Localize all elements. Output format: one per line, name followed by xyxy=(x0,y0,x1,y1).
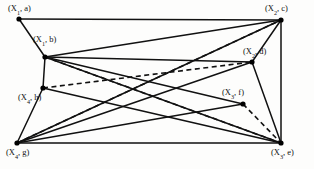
vertex-dot-f[interactable] xyxy=(240,101,245,106)
vertex-dot-e[interactable] xyxy=(278,140,283,145)
edge-solid-g-d xyxy=(17,62,252,143)
vertex-dot-b[interactable] xyxy=(42,54,47,59)
vertex-dot-h[interactable] xyxy=(40,85,45,90)
edge-solid-d-e xyxy=(252,62,281,143)
edge-solid-b-h xyxy=(43,57,45,88)
vertex-label-f: (X3, f) xyxy=(222,88,244,97)
edge-solid-h-e xyxy=(43,88,281,143)
vertex-dot-g[interactable] xyxy=(14,140,19,145)
edge-dashed-f-e xyxy=(243,104,281,143)
edge-solid-b-d xyxy=(45,57,252,62)
edge-solid-g-f xyxy=(17,104,243,143)
vertex-label-d: (X2, d) xyxy=(243,47,266,56)
edge-dashed-g-c xyxy=(17,20,281,143)
vertex-label-h: (X4, h) xyxy=(18,93,41,102)
edges-dashed-group xyxy=(17,20,281,143)
vertex-label-a: (X1, a) xyxy=(8,4,31,13)
edge-dashed-h-d xyxy=(43,62,252,88)
vertex-label-e: (X3, e) xyxy=(271,148,294,157)
vertex-dot-c[interactable] xyxy=(278,17,283,22)
edge-solid-b-f xyxy=(45,57,243,104)
vertex-label-b: (X1, b) xyxy=(33,35,56,44)
graph-diagram-canvas xyxy=(0,0,314,169)
edge-solid-a-c xyxy=(19,19,281,20)
vertex-label-c: (X2, c) xyxy=(265,4,288,13)
vertex-label-g: (X4, g) xyxy=(6,148,29,157)
vertex-dot-a[interactable] xyxy=(16,16,21,21)
vertex-dot-d[interactable] xyxy=(249,59,254,64)
